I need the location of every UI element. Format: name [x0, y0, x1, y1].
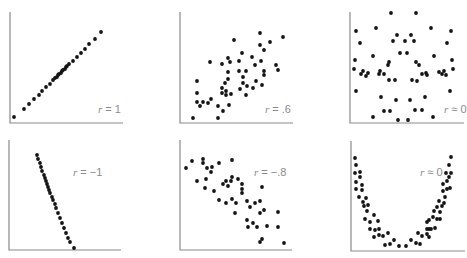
data-point [418, 242, 422, 246]
data-point [260, 83, 264, 87]
data-point [241, 81, 245, 85]
data-point [230, 158, 234, 162]
data-point [220, 86, 224, 90]
data-point [220, 91, 224, 95]
data-point [226, 56, 230, 60]
data-point [191, 116, 195, 120]
data-point [354, 187, 358, 191]
data-point [354, 89, 358, 93]
data-point [429, 26, 433, 30]
data-point [353, 171, 357, 175]
data-point [433, 226, 437, 230]
data-point [184, 166, 188, 170]
data-point [237, 69, 241, 73]
data-point [208, 60, 212, 64]
data-point [240, 187, 244, 191]
data-point [382, 109, 386, 113]
data-point [221, 182, 225, 186]
data-point [448, 186, 452, 190]
data-point [40, 169, 44, 173]
data-point [438, 210, 442, 214]
data-point [258, 240, 262, 244]
data-point [388, 109, 392, 113]
data-point [449, 29, 453, 33]
correlation-scatterplot-grid: r = 1 r = .6 r ≈ 0 r = −1 r = −.8 r ≈ 0 [0, 0, 467, 258]
data-point [209, 97, 213, 101]
data-point [427, 235, 431, 239]
data-point [393, 78, 397, 82]
data-point [259, 59, 263, 63]
data-point [389, 11, 393, 15]
data-point [450, 58, 454, 62]
data-point [404, 244, 408, 248]
data-point [12, 115, 16, 119]
data-point [405, 51, 409, 55]
data-point [281, 35, 285, 39]
data-point [357, 195, 361, 199]
data-point [420, 72, 424, 76]
data-point [371, 54, 375, 58]
data-point [262, 208, 266, 212]
data-point [195, 100, 199, 104]
data-point [398, 51, 402, 55]
data-point [276, 210, 280, 214]
data-point [195, 79, 199, 83]
data-point [371, 115, 375, 119]
data-point [255, 225, 259, 229]
data-point [387, 78, 391, 82]
data-point [35, 153, 39, 157]
data-point [201, 157, 205, 161]
data-point [87, 42, 91, 46]
data-point [236, 177, 240, 181]
data-point [38, 161, 42, 165]
data-point [361, 69, 365, 73]
data-point [364, 196, 368, 200]
data-point [245, 84, 249, 88]
data-point [383, 243, 387, 247]
data-point [437, 199, 441, 203]
axes [180, 140, 292, 250]
data-point [265, 224, 269, 228]
data-point [416, 231, 420, 235]
data-point [363, 217, 367, 221]
data-point [210, 165, 214, 169]
data-point [40, 89, 44, 93]
axes [351, 141, 465, 251]
data-point [238, 87, 242, 91]
data-point [198, 104, 202, 108]
data-point [397, 244, 401, 248]
data-point [358, 175, 362, 179]
data-point [395, 33, 399, 37]
data-point [432, 54, 436, 58]
data-point [427, 218, 431, 222]
data-point [274, 63, 278, 67]
data-point [352, 67, 356, 71]
data-point [232, 38, 236, 42]
data-point [205, 166, 209, 170]
data-point [366, 203, 370, 207]
data-point [244, 93, 248, 97]
data-point [372, 235, 376, 239]
data-point [353, 58, 357, 62]
data-point [435, 205, 439, 209]
data-point [282, 241, 286, 245]
data-point [414, 11, 418, 15]
data-point [37, 93, 41, 97]
data-point [258, 43, 262, 47]
data-point [366, 71, 370, 75]
data-point [58, 216, 62, 220]
data-point [447, 175, 451, 179]
data-point [206, 101, 210, 105]
data-point [240, 191, 244, 195]
data-point [241, 75, 245, 79]
scatterplot-6 [351, 141, 465, 251]
data-point [425, 227, 429, 231]
data-point [216, 116, 220, 120]
data-point [195, 179, 199, 183]
data-point [48, 191, 52, 195]
data-point [423, 95, 427, 99]
data-point [245, 199, 249, 203]
data-point [444, 73, 448, 77]
data-point [431, 215, 435, 219]
annotation-r-neg-0-8: r = −.8 [254, 166, 286, 178]
